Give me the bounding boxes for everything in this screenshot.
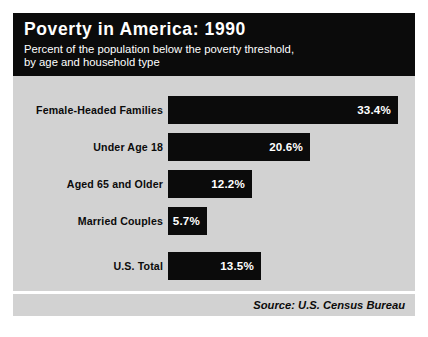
bar-rect[interactable]: 13.5%: [168, 252, 261, 280]
chart-header-band: Poverty in America: 1990 Percent of the …: [13, 13, 415, 76]
bar-row: Married Couples5.7%: [13, 207, 415, 235]
bar-rect[interactable]: 5.7%: [168, 207, 207, 235]
bar-track: 13.5%: [168, 252, 261, 280]
bar-track: 20.6%: [168, 133, 310, 161]
chart-footer-band: Source: U.S. Census Bureau: [13, 294, 415, 316]
chart-plot-area: Female-Headed Families33.4%Under Age 182…: [13, 76, 415, 291]
bar-track: 33.4%: [168, 96, 398, 124]
bar-track: 5.7%: [168, 207, 207, 235]
poverty-chart-figure: Poverty in America: 1990 Percent of the …: [13, 13, 415, 316]
chart-title: Poverty in America: 1990: [24, 19, 415, 40]
chart-subtitle: Percent of the population below the pove…: [24, 43, 415, 68]
source-note: Source: U.S. Census Bureau: [253, 294, 405, 316]
bar-row: Female-Headed Families33.4%: [13, 96, 415, 124]
bar-track: 12.2%: [168, 170, 252, 198]
chart-subtitle-line-1: Percent of the population below the pove…: [24, 43, 415, 56]
bar-value-label: 12.2%: [211, 170, 245, 198]
bar-category-label: Married Couples: [13, 207, 163, 235]
bar-value-label: 5.7%: [173, 207, 200, 235]
bar-category-label: U.S. Total: [13, 252, 163, 280]
bar-row: U.S. Total13.5%: [13, 252, 415, 280]
bar-rect[interactable]: 20.6%: [168, 133, 310, 161]
bar-value-label: 33.4%: [357, 96, 391, 124]
bar-category-label: Under Age 18: [13, 133, 163, 161]
bar-row: Aged 65 and Older12.2%: [13, 170, 415, 198]
bar-category-label: Aged 65 and Older: [13, 170, 163, 198]
bar-row: Under Age 1820.6%: [13, 133, 415, 161]
bar-value-label: 20.6%: [269, 133, 303, 161]
bar-value-label: 13.5%: [220, 252, 254, 280]
bar-rect[interactable]: 12.2%: [168, 170, 252, 198]
bar-category-label: Female-Headed Families: [13, 96, 163, 124]
chart-subtitle-line-2: by age and household type: [24, 56, 415, 69]
bar-rect[interactable]: 33.4%: [168, 96, 398, 124]
